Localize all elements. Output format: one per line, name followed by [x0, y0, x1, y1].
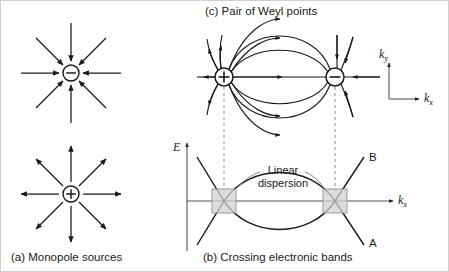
band-label-A: A: [369, 237, 377, 251]
weyl-crossing-left: [212, 189, 236, 213]
linear-dispersion-line2: dispersion: [251, 177, 315, 190]
weyl-source-symbol: [215, 68, 233, 86]
negative-monopole-symbol: [63, 65, 79, 81]
panel-a-caption: (a) Monopole sources: [11, 251, 122, 265]
linear-dispersion-line1: Linear: [251, 164, 315, 177]
kspace-axes-inset: [389, 63, 419, 99]
panel-b-caption: (b) Crossing electronic bands: [203, 251, 353, 265]
band-label-B: B: [369, 151, 377, 165]
kx-inset-axis-label: kx: [424, 91, 433, 107]
ky-axis-label: ky: [379, 47, 388, 63]
kx-band-subscript: x: [403, 199, 407, 209]
weyl-crossing-right: [323, 189, 347, 213]
panel-c-title: (c) Pair of Weyl points: [205, 5, 317, 19]
positive-monopole-symbol: [63, 186, 79, 202]
linear-dispersion-annotation: Linear dispersion: [251, 164, 315, 190]
kx-band-axis-label: kx: [398, 193, 407, 209]
ky-axis-subscript: y: [384, 53, 388, 63]
figure-root: (c) Pair of Weyl points (a) Monopole sou…: [0, 0, 449, 272]
kx-inset-subscript: x: [429, 97, 433, 107]
weyl-sink-symbol: [326, 68, 344, 86]
energy-axis-label: E: [173, 140, 180, 154]
figure-canvas: [1, 1, 449, 272]
